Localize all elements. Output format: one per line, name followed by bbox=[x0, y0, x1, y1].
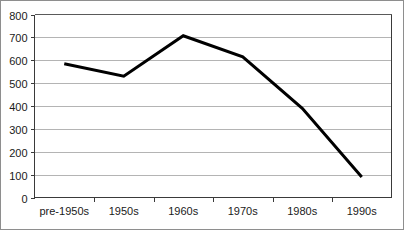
x-tick-label: 1990s bbox=[347, 205, 377, 217]
x-axis-ticks: pre-1950s1950s1960s1970s1980s1990s bbox=[39, 198, 377, 217]
y-tick-label: 400 bbox=[9, 101, 27, 113]
x-tick-label: 1950s bbox=[109, 205, 139, 217]
y-tick-label: 100 bbox=[9, 170, 27, 182]
y-tick-label: 300 bbox=[9, 124, 27, 136]
y-axis-ticks: 0100200300400500600700800 bbox=[9, 10, 34, 205]
y-tick-label: 600 bbox=[9, 55, 27, 67]
y-tick-label: 200 bbox=[9, 147, 27, 159]
x-tick-label: pre-1950s bbox=[39, 205, 89, 217]
y-tick-label: 500 bbox=[9, 78, 27, 90]
x-tick-label: 1970s bbox=[228, 205, 258, 217]
x-tick-label: 1980s bbox=[287, 205, 317, 217]
y-tick-label: 0 bbox=[21, 193, 27, 205]
line-chart-figure: 0100200300400500600700800 pre-1950s1950s… bbox=[0, 0, 404, 230]
y-tick-label: 700 bbox=[9, 32, 27, 44]
y-tick-label: 800 bbox=[9, 10, 27, 22]
gridlines bbox=[35, 38, 392, 176]
x-tick-label: 1960s bbox=[168, 205, 198, 217]
chart-canvas: 0100200300400500600700800 pre-1950s1950s… bbox=[1, 1, 404, 230]
